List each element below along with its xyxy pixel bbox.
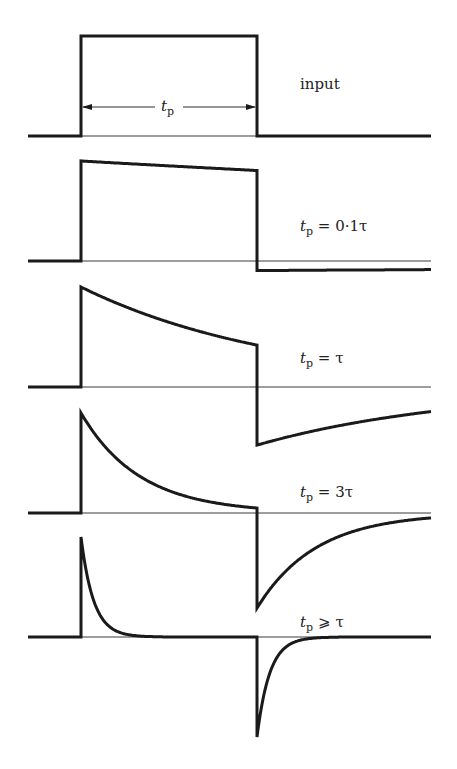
response-waveform	[28, 161, 431, 271]
condition-label: tp = 3τ	[300, 483, 353, 504]
pulse-width-label: tp	[161, 97, 174, 118]
panel-tp-0.1tau: tp = 0·1τ	[28, 161, 431, 271]
pulse-response-diagram: tp input tp = 0·1τ tp = τ tp = 3τ tp ⩾ τ	[0, 0, 457, 769]
condition-label: tp = τ	[300, 349, 343, 370]
response-waveform	[28, 287, 431, 445]
panel-tp-much-greater-tau: tp ⩾ τ	[28, 537, 431, 737]
input-label: input	[300, 75, 340, 93]
panel-tp-tau: tp = τ	[28, 287, 431, 445]
condition-label: tp ⩾ τ	[300, 613, 344, 634]
panel-input: tp input	[28, 36, 431, 136]
input-pulse-waveform	[28, 36, 431, 136]
condition-label: tp = 0·1τ	[300, 217, 367, 238]
